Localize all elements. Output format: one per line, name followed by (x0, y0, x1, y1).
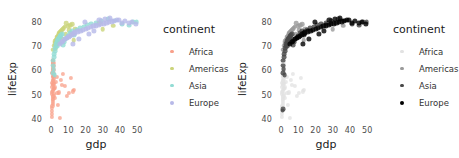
legend-swatch-container (393, 50, 411, 53)
data-point (298, 23, 303, 28)
panel-right-grayscale: lifeExp 4050607080 01020304050 gdp conti… (230, 0, 459, 158)
legend-label: Africa (189, 47, 213, 57)
left-x-axis: 01020304050 gdp (0, 124, 229, 158)
right-y-tick-label: 50 (261, 90, 272, 99)
left-x-tick-label: 0 (49, 126, 54, 135)
legend-label: Africa (419, 47, 443, 57)
legend-item-asia[interactable]: Asia (393, 77, 459, 94)
left-x-tick-label: 40 (115, 126, 126, 135)
legend-dot-icon (170, 84, 173, 87)
right-y-tick-label: 80 (261, 17, 272, 26)
legend-item-europe[interactable]: Europe (163, 94, 229, 111)
legend-item-americas[interactable]: Americas (393, 60, 459, 77)
legend-item-africa[interactable]: Africa (163, 43, 229, 60)
right-legend: continent AfricaAmericasAsiaEurope (393, 24, 459, 111)
left-y-tick-label: 60 (31, 66, 42, 75)
left-x-axis-label: gdp (46, 138, 146, 151)
data-point (101, 27, 106, 32)
legend-swatch-container (393, 67, 411, 70)
legend-dot-icon (170, 101, 174, 105)
legend-swatch-container (393, 84, 411, 87)
legend-swatch-container (163, 101, 181, 105)
right-y-tick-label: 60 (261, 66, 272, 75)
left-x-tick-label: 20 (80, 126, 91, 135)
legend-item-europe[interactable]: Europe (393, 94, 459, 111)
left-y-tick-label: 40 (31, 115, 42, 124)
legend-dot-icon (400, 50, 403, 53)
scatter-plot-figure: lifeExp 4050607080 01020304050 gdp conti… (0, 0, 459, 158)
panel-left-color: lifeExp 4050607080 01020304050 gdp conti… (0, 0, 229, 158)
legend-dot-icon (170, 67, 173, 70)
legend-swatch-container (163, 50, 181, 53)
legend-swatch-container (393, 101, 411, 105)
right-x-tick-label: 40 (345, 126, 356, 135)
data-point (282, 73, 287, 78)
left-legend-title: continent (163, 24, 229, 36)
data-point (341, 24, 346, 29)
right-x-tick-label: 30 (328, 126, 339, 135)
data-point (52, 73, 57, 78)
left-y-tick-label: 80 (31, 17, 42, 26)
right-y-tick-label: 70 (261, 42, 272, 51)
legend-label: Americas (419, 64, 459, 74)
legend-dot-icon (400, 101, 404, 105)
left-y-tick-label: 50 (31, 90, 42, 99)
legend-label: Asia (189, 81, 207, 91)
right-y-axis-label: lifeExp (237, 49, 248, 109)
legend-dot-icon (400, 84, 403, 87)
data-point (280, 106, 285, 111)
legend-item-asia[interactable]: Asia (163, 77, 229, 94)
right-x-axis-label: gdp (276, 138, 376, 151)
legend-label: Asia (419, 81, 437, 91)
data-point (51, 67, 56, 72)
left-x-tick-label: 10 (63, 126, 74, 135)
data-point (331, 27, 336, 32)
legend-swatch-container (163, 67, 181, 70)
data-point (68, 23, 73, 28)
right-x-tick-label: 0 (279, 126, 284, 135)
left-legend: continent AfricaAmericasAsiaEurope (163, 24, 229, 111)
data-point (111, 24, 116, 29)
right-plot-area (276, 12, 376, 124)
left-plot-area (46, 12, 146, 124)
legend-dot-icon (170, 50, 173, 53)
left-y-tick-label: 70 (31, 42, 42, 51)
right-x-tick-label: 10 (293, 126, 304, 135)
legend-item-africa[interactable]: Africa (393, 43, 459, 60)
legend-swatch-container (163, 84, 181, 87)
right-x-tick-label: 50 (362, 126, 373, 135)
legend-item-americas[interactable]: Americas (163, 60, 229, 77)
right-y-tick-label: 40 (261, 115, 272, 124)
left-legend-entries: AfricaAmericasAsiaEurope (163, 43, 229, 111)
left-y-axis-label: lifeExp (7, 49, 18, 109)
left-x-tick-label: 30 (98, 126, 109, 135)
left-x-tick-label: 50 (132, 126, 143, 135)
right-x-tick-label: 20 (310, 126, 321, 135)
right-legend-entries: AfricaAmericasAsiaEurope (393, 43, 459, 111)
legend-label: Europe (189, 98, 219, 108)
legend-label: Americas (189, 64, 229, 74)
data-point (281, 67, 286, 72)
legend-label: Europe (419, 98, 449, 108)
right-x-axis: 01020304050 gdp (230, 124, 459, 158)
right-legend-title: continent (393, 24, 459, 36)
legend-dot-icon (400, 67, 403, 70)
